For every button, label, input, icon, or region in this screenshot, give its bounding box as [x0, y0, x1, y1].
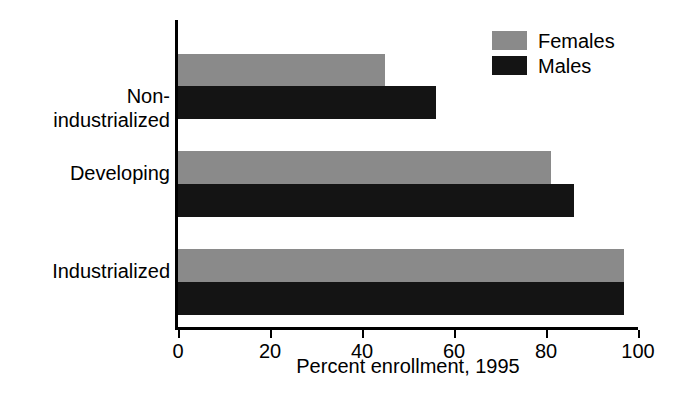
category-label-non-industrialized: Non- industrialized: [2, 84, 170, 132]
category-label-line-1: Non-: [127, 85, 170, 107]
x-tick-0: [178, 330, 180, 338]
x-axis-line: [175, 327, 638, 330]
category-label-text: Developing: [70, 162, 170, 184]
legend-item-females: Females: [492, 28, 615, 53]
x-tick-80: [546, 330, 548, 338]
x-tick-40: [362, 330, 364, 338]
x-axis-title: Percent enrollment, 1995: [178, 355, 638, 378]
category-label-text: Industrialized: [52, 260, 170, 282]
bar-industrialized-males: [178, 282, 624, 315]
legend-label-males: Males: [538, 56, 591, 76]
bar-non-industrialized-males: [178, 86, 436, 119]
category-label-line-2: industrialized: [53, 109, 170, 131]
x-tick-20: [270, 330, 272, 338]
category-axis-labels: Non- industrialized Developing Industria…: [0, 20, 170, 327]
chart-figure: Non- industrialized Developing Industria…: [0, 0, 697, 406]
legend-item-males: Males: [492, 53, 615, 78]
legend-swatch-males-icon: [492, 56, 527, 75]
legend-label-females: Females: [538, 31, 615, 51]
bar-developing-males: [178, 184, 574, 217]
x-tick-60: [454, 330, 456, 338]
category-label-developing: Developing: [2, 161, 170, 185]
legend-swatch-females-icon: [492, 31, 527, 50]
x-tick-100: [638, 330, 640, 338]
bar-non-industrialized-females: [178, 54, 385, 86]
legend: Females Males: [492, 28, 615, 78]
category-label-industrialized: Industrialized: [2, 259, 170, 283]
bar-developing-females: [178, 151, 551, 184]
bar-industrialized-females: [178, 249, 624, 282]
